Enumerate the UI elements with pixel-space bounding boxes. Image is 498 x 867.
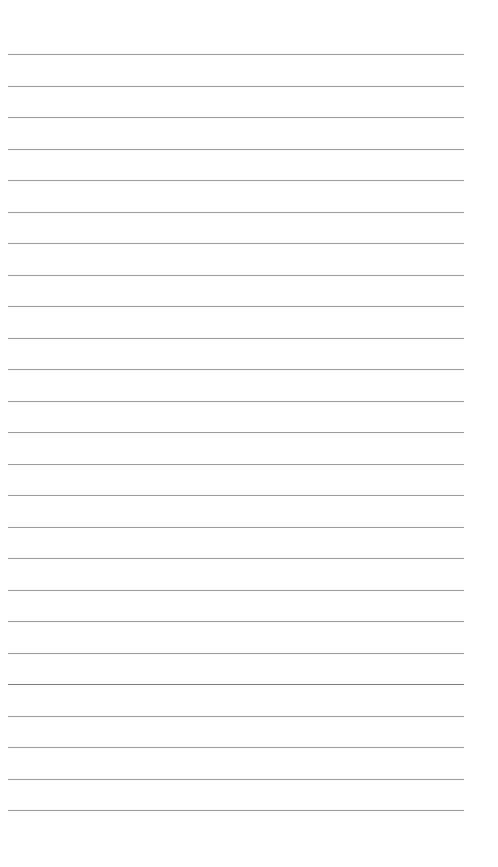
ruled-line: [8, 527, 464, 528]
ruled-line: [8, 810, 464, 811]
ruled-line: [8, 149, 464, 150]
ruled-line: [8, 54, 464, 55]
ruled-line: [8, 558, 464, 559]
ruled-line: [8, 495, 464, 496]
ruled-line: [8, 716, 464, 717]
ruled-line: [8, 401, 464, 402]
ruled-line: [8, 684, 464, 685]
ruled-line: [8, 747, 464, 748]
ruled-line: [8, 243, 464, 244]
ruled-line: [8, 779, 464, 780]
ruled-line: [8, 86, 464, 87]
ruled-line: [8, 432, 464, 433]
ruled-line: [8, 306, 464, 307]
ruled-line: [8, 621, 464, 622]
ruled-line: [8, 117, 464, 118]
ruled-line: [8, 180, 464, 181]
ruled-line: [8, 653, 464, 654]
ruled-line: [8, 369, 464, 370]
ruled-line: [8, 212, 464, 213]
ruled-line: [8, 590, 464, 591]
lined-paper-page: [0, 0, 498, 867]
ruled-line: [8, 464, 464, 465]
ruled-line: [8, 275, 464, 276]
ruled-line: [8, 338, 464, 339]
